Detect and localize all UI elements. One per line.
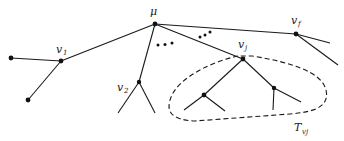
- edge-child-a-right: [204, 95, 225, 111]
- label-v1-sub: 1: [63, 49, 67, 57]
- edge-v2-right: [139, 82, 155, 113]
- tree-diagram: μ v 1 v 2 v j v f T vj: [0, 0, 344, 141]
- label-vf: v: [291, 14, 298, 27]
- subtree-boundary: [169, 56, 327, 121]
- node-vj-child-b: [272, 86, 276, 90]
- node-vf: [294, 32, 299, 37]
- node-v1: [59, 59, 64, 64]
- label-vf-sub: f: [297, 20, 302, 28]
- edge-v1-leaf-a: [11, 58, 61, 61]
- label-mu: μ: [150, 5, 157, 18]
- label-subtree-T-sub: vj: [302, 128, 309, 136]
- node-v1-leaf-b: [26, 98, 31, 103]
- edge-child-b-extend: [274, 88, 301, 102]
- node-vj-child-a: [202, 93, 207, 98]
- node-v2: [137, 80, 141, 84]
- edge-child-a-left: [184, 95, 204, 110]
- node-vj: [241, 57, 246, 62]
- node-mu: [153, 22, 158, 27]
- label-v2-sub: 2: [123, 87, 129, 95]
- edge-v1-leaf-b: [28, 61, 61, 100]
- edge-vj-child-b: [243, 59, 274, 88]
- label-v1: v: [56, 43, 63, 56]
- node-v1-leaf-a: [9, 56, 14, 61]
- edge-child-b-down: [273, 88, 274, 110]
- edge-mu-v1: [61, 24, 155, 61]
- edge-mu-v2: [139, 24, 155, 82]
- ellipsis-dots-2: [199, 31, 212, 39]
- ellipsis-dots-1: [157, 42, 174, 47]
- edge-vj-child-a: [204, 59, 243, 95]
- edge-vf-b: [296, 34, 338, 65]
- label-vj: v: [238, 38, 245, 51]
- label-v2: v: [117, 81, 124, 94]
- edge-vf-a: [296, 34, 330, 43]
